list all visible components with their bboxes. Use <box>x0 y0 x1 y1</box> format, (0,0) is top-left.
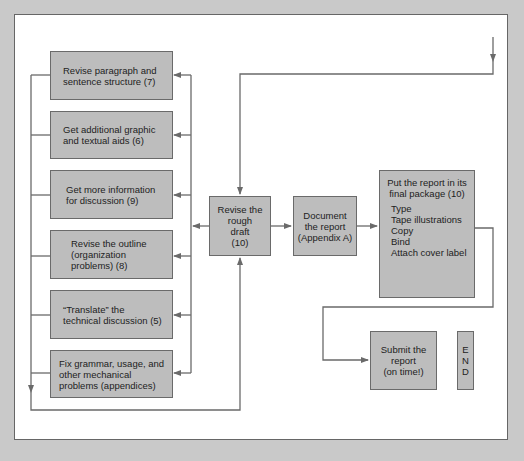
task-label-line: Fix grammar, usage, and <box>59 358 164 369</box>
end-box: E N D <box>457 331 474 390</box>
end-letter: N <box>462 355 469 366</box>
final-package-title: Put the report in its <box>384 177 470 188</box>
end-letter: D <box>462 366 469 377</box>
task-label-line: (organization <box>71 249 147 260</box>
end-letter: E <box>462 344 468 355</box>
task-label-line: for discussion (9) <box>66 195 155 206</box>
task-box-more-information: Get more information for discussion (9) <box>50 170 173 219</box>
task-label-line: and textual aids (6) <box>63 135 155 146</box>
task-box-fix-grammar: Fix grammar, usage, and other mechanical… <box>50 350 173 398</box>
submit-label: Submit the <box>381 344 426 355</box>
package-step: Attach cover label <box>388 247 467 258</box>
task-box-translate-technical: “Translate” the technical discussion (5) <box>50 290 173 339</box>
task-label-line: Revise paragraph and <box>63 65 156 76</box>
task-label-line: other mechanical <box>59 369 164 380</box>
task-label-line: technical discussion (5) <box>63 315 162 326</box>
task-label-line: Get additional graphic <box>63 124 155 135</box>
task-label-line: Get more information <box>66 184 155 195</box>
task-box-revise-outline: Revise the outline (organization problem… <box>50 230 173 279</box>
task-label-line: sentence structure (7) <box>63 76 156 87</box>
submit-report-box: Submit the report (on time!) <box>370 331 437 390</box>
task-label-line: “Translate” the <box>63 304 162 315</box>
package-step: Type <box>388 203 412 214</box>
document-label: Document <box>298 210 352 221</box>
task-box-revise-paragraph: Revise paragraph and sentence structure … <box>50 51 173 100</box>
document-label: the report <box>298 221 352 232</box>
rough-draft-box: Revise the rough draft (10) <box>209 196 271 256</box>
final-package-box: Put the report in its final package (10)… <box>379 170 475 298</box>
rough-draft-label: rough <box>218 215 263 226</box>
document-report-box: Document the report (Appendix A) <box>293 196 357 256</box>
task-box-additional-aids: Get additional graphic and textual aids … <box>50 111 173 159</box>
package-step: Bind <box>388 236 410 247</box>
document-label: (Appendix A) <box>298 232 352 243</box>
task-label-line: problems) (8) <box>71 260 147 271</box>
task-label-line: problems (appendices) <box>59 380 164 391</box>
submit-label: report <box>381 355 426 366</box>
task-label-line: Revise the outline <box>71 238 147 249</box>
rough-draft-label: Revise the <box>218 204 263 215</box>
package-step: Tape illustrations <box>388 214 462 225</box>
submit-label: (on time!) <box>381 366 426 377</box>
final-package-title: final package (10) <box>384 188 470 199</box>
rough-draft-label: draft <box>218 226 263 237</box>
package-step: Copy <box>388 225 413 236</box>
rough-draft-label: (10) <box>218 237 263 248</box>
